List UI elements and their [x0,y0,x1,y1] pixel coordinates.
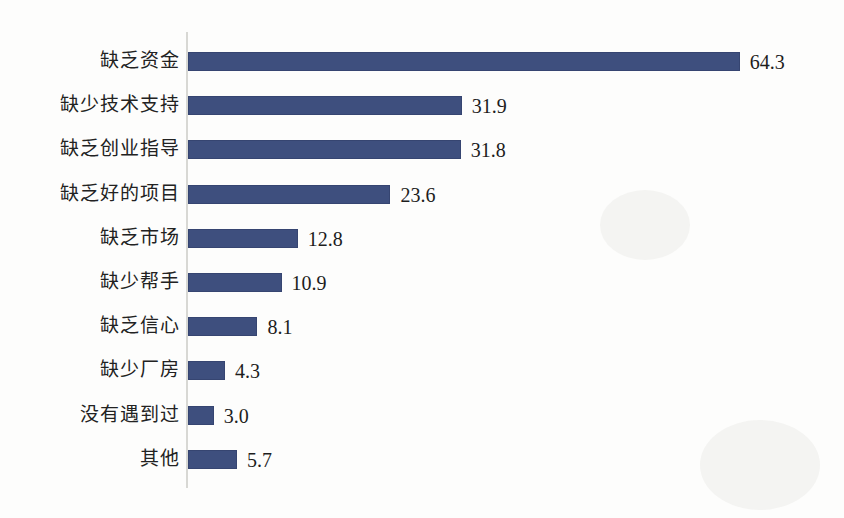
bar-track [188,450,237,469]
bar[interactable] [188,273,282,292]
bar[interactable] [188,96,462,115]
category-label: 没有遇到过 [80,393,180,437]
bar-row: 缺乏好的项目23.6 [0,172,844,216]
bar[interactable] [188,361,225,380]
bar-row: 缺乏创业指导31.8 [0,127,844,171]
bar[interactable] [188,406,214,425]
bar[interactable] [188,140,461,159]
bar-value-label: 5.7 [247,437,272,481]
bar-value-label: 23.6 [400,172,435,216]
bar-track [188,361,225,380]
bar-track [188,52,740,71]
bar-row: 缺少帮手10.9 [0,260,844,304]
category-label: 缺少帮手 [100,260,180,304]
bar-track [188,406,214,425]
category-label: 缺乏好的项目 [60,172,180,216]
bar-row: 没有遇到过3.0 [0,393,844,437]
bar-value-label: 4.3 [235,348,260,392]
bar[interactable] [188,229,298,248]
category-label: 缺乏信心 [100,304,180,348]
bar-value-label: 10.9 [292,260,327,304]
category-label: 缺乏市场 [100,216,180,260]
bar-row: 缺少技术支持31.9 [0,83,844,127]
bar-row: 缺乏资金64.3 [0,39,844,83]
category-label: 缺少厂房 [100,348,180,392]
category-label: 缺乏创业指导 [60,127,180,171]
category-label: 缺少技术支持 [60,83,180,127]
plot-area: 缺乏资金64.3缺少技术支持31.9缺乏创业指导31.8缺乏好的项目23.6缺乏… [0,0,844,518]
bar-value-label: 12.8 [308,216,343,260]
bar[interactable] [188,185,390,204]
category-label: 其他 [140,437,180,481]
bar-value-label: 3.0 [224,393,249,437]
bar-chart: 缺乏资金64.3缺少技术支持31.9缺乏创业指导31.8缺乏好的项目23.6缺乏… [0,0,844,518]
category-label: 缺乏资金 [100,39,180,83]
bar-value-label: 8.1 [267,304,292,348]
bar[interactable] [188,52,740,71]
bar-track [188,185,390,204]
bar-track [188,229,298,248]
bar-value-label: 31.8 [471,127,506,171]
bar-track [188,273,282,292]
bar-row: 其他5.7 [0,437,844,481]
bar-row: 缺少厂房4.3 [0,348,844,392]
bar-row: 缺乏市场12.8 [0,216,844,260]
bar-value-label: 31.9 [472,83,507,127]
bar[interactable] [188,317,257,336]
bar-row: 缺乏信心8.1 [0,304,844,348]
bar[interactable] [188,450,237,469]
bar-track [188,96,462,115]
bar-track [188,317,257,336]
bar-value-label: 64.3 [750,39,785,83]
bar-track [188,140,461,159]
